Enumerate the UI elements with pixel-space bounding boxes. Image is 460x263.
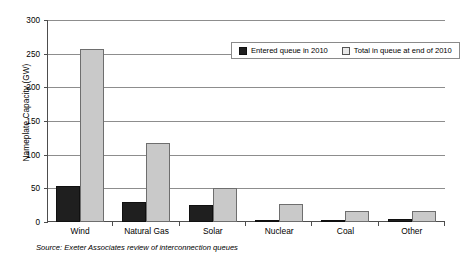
bar-entered — [388, 219, 412, 222]
legend-swatch-icon — [239, 47, 247, 55]
x-tick-label: Wind — [47, 226, 113, 236]
x-axis-labels: Wind Natural Gas Solar Nuclear Coal Othe… — [47, 226, 445, 236]
bar-total — [412, 211, 436, 222]
x-tick-label: Other — [379, 226, 445, 236]
y-tick-label: 0 — [0, 218, 40, 227]
chart-legend: Entered queue in 2010 Total in queue at … — [231, 42, 460, 59]
bar-entered — [255, 220, 279, 222]
legend-label: Total in queue at end of 2010 — [354, 46, 452, 55]
x-tick-label: Solar — [180, 226, 246, 236]
bar-total — [213, 188, 237, 222]
y-tick-label: 100 — [0, 150, 40, 159]
bar-group — [113, 20, 179, 222]
y-tick-mark-0 — [44, 222, 48, 223]
bar-entered — [321, 220, 345, 222]
legend-item-total: Total in queue at end of 2010 — [342, 46, 452, 55]
bar-total — [80, 49, 104, 222]
bar-total — [345, 211, 369, 222]
legend-swatch-icon — [342, 47, 350, 55]
legend-item-entered: Entered queue in 2010 — [239, 46, 328, 55]
x-tick-label: Natural Gas — [113, 226, 179, 236]
bar-total — [279, 204, 303, 222]
y-tick-label: 300 — [0, 16, 40, 25]
bar-entered — [189, 205, 213, 222]
x-tick-label: Nuclear — [246, 226, 312, 236]
y-tick-label: 150 — [0, 117, 40, 126]
source-caption: Source: Exeter Associates review of inte… — [36, 243, 238, 252]
bar-total — [146, 143, 170, 222]
bar-entered — [56, 186, 80, 222]
plot-area: 300 250 200 150 100 50 0 — [47, 20, 445, 222]
bar-entered — [122, 202, 146, 222]
x-tick-label: Coal — [312, 226, 378, 236]
bar-group — [47, 20, 113, 222]
legend-label: Entered queue in 2010 — [251, 46, 328, 55]
y-tick-label: 250 — [0, 49, 40, 58]
y-tick-label: 50 — [0, 184, 40, 193]
y-tick-label: 200 — [0, 83, 40, 92]
